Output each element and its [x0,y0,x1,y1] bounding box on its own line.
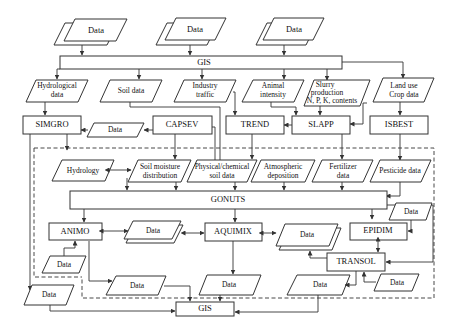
model-capsev: CAPSEV [153,116,212,134]
industry-label-1: Industry [193,81,218,90]
aquimix-label: AQUIMIX [214,226,252,236]
animo-aquimix-data: Data [124,221,183,243]
input-soil-data: Soil data [100,80,162,102]
aquimix-out-label: Data [222,280,237,289]
gis-bottom-label: GIS [198,303,212,313]
top-data-source-2: Data [156,18,226,45]
soil-moisture-label-2: distribution [143,171,178,180]
soil-data-label: Soil data [118,86,145,95]
model-simgro: SIMGRO [23,116,81,134]
simgro-out-label: Data [42,290,57,299]
soil-moisture-distribution: Soil moisture distribution [128,160,191,182]
aquimix-transol-data: Data [276,224,341,250]
simgro-label: SIMGRO [35,119,68,129]
gis-bottom-bar: GIS [176,302,234,316]
capsev-label: CAPSEV [166,119,199,129]
animal-label-2: intensity [260,90,286,99]
hydrology-label: Hydrology [67,166,100,175]
trend-label: TREND [241,119,269,129]
animal-label-1: Animal [262,81,285,90]
transol-out-label: Data [313,280,328,289]
slurry-label-3: N, P, K, contents [307,96,357,105]
input-industry-traffic: Industry traffic [174,80,236,102]
physchem-label-2: soil data [209,171,235,180]
model-aquimix: AQUIMIX [205,223,262,241]
input-hydrological-data: Hydrological data [26,80,88,102]
simgro-data-final: Data [24,285,74,305]
landuse-label-2: Crop data [389,90,419,99]
top-data-label-1: Data [88,25,104,35]
model-epidim: EPIDIM [350,223,407,240]
transol-in-label: Data [390,278,405,287]
gis-top-label: GIS [197,57,211,67]
transol-label: TRANSOL [336,256,375,266]
hydrological-label-1: Hydrological [37,81,77,90]
physchem-label-1: Physical/chemical [195,162,250,171]
atmos-label-1: Atmospheric [264,162,303,171]
input-land-use-crop: Land use Crop data [373,78,434,102]
fert-label-2: data [337,171,350,180]
slapp-label: SLAPP [308,119,334,129]
animo-out-label: Data [130,281,145,290]
aquimix-transol-data-label: Data [300,230,315,239]
model-gonuts: GONUTS [70,191,387,209]
flow-diagram: Data Data Data GIS Hydrological data Soi… [0,0,461,332]
top-data-source-1: Data [54,19,127,45]
atmospheric-deposition: Atmospheric deposition [251,160,315,182]
gonuts-label: GONUTS [211,194,246,204]
model-isbest: ISBEST [370,116,428,134]
pesticide-label: Pesticide data [379,166,421,175]
top-data-label-3: Data [286,24,302,34]
industry-label-2: traffic [196,90,215,99]
atmos-label-2: deposition [267,171,298,180]
physical-chemical-soil-data: Physical/chemical soil data [187,160,257,182]
top-data-label-2: Data [187,24,203,34]
simgro-data-output: Data [87,123,144,137]
fertilizer-data: Fertilizer data [312,160,373,182]
animo-aquimix-data-label: Data [146,226,161,235]
model-animo: ANIMO [49,223,102,240]
animo-data-output: Data [106,276,166,295]
input-animal-intensity: Animal intensity [242,80,304,102]
model-trend: TREND [226,116,284,134]
model-transol: TRANSOL [327,253,385,271]
simgro-data-label: Data [108,125,123,134]
aquimix-data-output: Data [199,275,261,295]
soil-moisture-label-1: Soil moisture [140,162,181,171]
input-slurry-production: Slurry production N, P, K, contents [304,80,370,106]
hydrological-label-2: data [51,90,64,99]
animo-data-input: Data [42,256,86,273]
top-data-source-3: Data [256,18,324,45]
epidim-data-input: Data [389,203,432,220]
gis-top-bar: GIS [60,56,342,69]
hydrology-data: Hydrology [52,160,114,181]
fert-label-1: Fertilizer [329,162,357,171]
animo-in-label: Data [57,260,72,269]
model-slapp: SLAPP [292,116,350,134]
animo-label: ANIMO [61,226,90,236]
pesticide-data: Pesticide data [370,160,431,182]
transol-data-output: Data [287,275,350,295]
landuse-label-1: Land use [390,81,418,90]
isbest-label: ISBEST [385,119,414,129]
epidim-label: EPIDIM [363,225,393,235]
epidim-data-label: Data [404,207,419,216]
transol-data-input: Data [374,274,419,291]
